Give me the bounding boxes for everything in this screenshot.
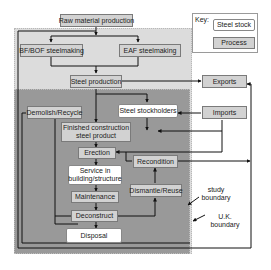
node-eaf-steelmaking: EAF steelmaking <box>119 44 181 57</box>
key-process: Process <box>213 37 255 49</box>
finished-line2: steel product <box>76 132 116 140</box>
node-demolish-recycle: Demolish/Recycle <box>27 106 82 119</box>
node-steel-production: Steel production <box>70 75 122 88</box>
finished-line1: Finished construction <box>63 124 129 132</box>
uk-boundary-label: U.K. boundary <box>205 213 245 229</box>
node-dismantle-reuse: Dismantle/Reuse <box>130 184 182 197</box>
node-raw-material-production: Raw material production <box>60 14 133 27</box>
node-finished-construction-steel-product: Finished construction steel product <box>61 122 131 142</box>
node-maintenance: Maintenance <box>71 191 119 203</box>
study-boundary-line2: boundary <box>196 194 236 202</box>
key-steel-stock: Steel stock <box>213 19 255 31</box>
legend-key: Key: Steel stock Process <box>192 13 258 53</box>
node-deconstruct: Deconstruct <box>71 210 118 222</box>
key-label: Key: <box>195 16 209 23</box>
node-erection: Erection <box>78 147 116 159</box>
node-service-in-building-structure: Service in building/structure <box>68 165 122 185</box>
study-boundary-line1: study <box>196 186 236 194</box>
node-recondition: Recondition <box>133 155 178 168</box>
node-exports: Exports <box>202 75 247 88</box>
node-steel-stockholders: Steel stockholders <box>118 104 178 118</box>
uk-boundary-line1: U.K. <box>205 213 245 221</box>
node-disposal: Disposal <box>66 228 122 243</box>
service-line1: Service in <box>80 167 111 175</box>
service-line2: building/structure <box>68 175 121 183</box>
study-boundary-label: study boundary <box>196 186 236 202</box>
node-bf-bof-steelmaking: BF/BOF steelmaking <box>20 44 83 57</box>
uk-boundary-line2: boundary <box>205 221 245 229</box>
node-imports: Imports <box>202 106 247 119</box>
